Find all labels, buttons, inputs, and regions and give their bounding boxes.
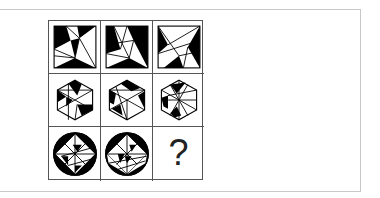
square-figure-1 xyxy=(53,25,97,69)
question-mark: ? xyxy=(168,135,188,171)
circle-figure-1 xyxy=(52,131,98,177)
square-figure-2 xyxy=(105,25,149,69)
hexagon-figure-1 xyxy=(53,78,97,122)
cell-r1-c1 xyxy=(49,21,101,74)
cell-r1-c3 xyxy=(153,21,204,74)
circle-figure-2 xyxy=(104,131,150,177)
cell-r3-c1 xyxy=(49,127,101,181)
cell-r2-c1 xyxy=(49,74,101,127)
cell-r1-c2 xyxy=(101,21,153,74)
cell-r3-c2 xyxy=(101,127,153,181)
hexagon-figure-2 xyxy=(105,78,149,122)
cell-r3-c3-missing: ? xyxy=(153,127,204,181)
hexagon-figure-3 xyxy=(157,78,201,122)
puzzle-grid: ? xyxy=(48,20,203,180)
cell-r2-c2 xyxy=(101,74,153,127)
cell-r2-c3 xyxy=(153,74,204,127)
square-figure-3 xyxy=(157,25,201,69)
